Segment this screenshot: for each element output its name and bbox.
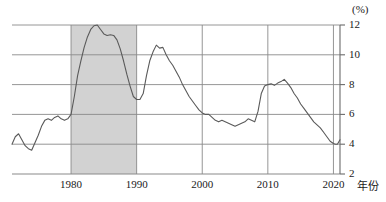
y-tick-label: 12 [349,18,360,30]
chart-container: (%) 12108642 19801990200020102020 年份 [0,0,386,202]
x-tick-label: 1980 [60,178,82,190]
shaded-region-highlight-band [71,25,137,174]
x-tick-label: 1990 [126,178,148,190]
x-axis-title: 年份 [357,177,379,193]
chart-plot-svg [0,0,386,202]
series-line [12,25,340,150]
x-tick-label: 2010 [257,178,279,190]
y-tick-label: 8 [349,78,355,90]
x-tick-label: 2000 [191,178,213,190]
y-tick-label: 10 [349,48,360,60]
x-tick-label: 2020 [322,178,344,190]
y-tick-label: 2 [349,167,355,179]
y-tick-label: 6 [349,107,355,119]
y-tick-label: 4 [349,137,355,149]
